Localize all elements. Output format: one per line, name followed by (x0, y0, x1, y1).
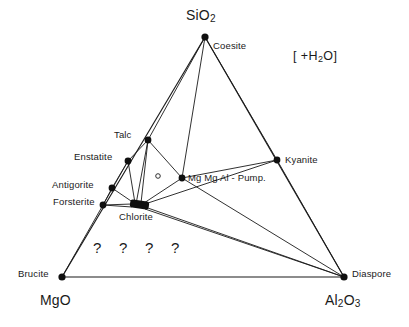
tie-chlorite-mgpump (144, 178, 182, 203)
node-brucite[interactable] (58, 273, 65, 280)
vertex-label-al2o3: Al2O3 (325, 293, 361, 309)
unknown-marker-4: ? (171, 240, 179, 255)
fluid-annotation: [ +H2O] (293, 50, 337, 64)
tie-enstatite-chlorite (128, 161, 135, 203)
phase-label-kyanite: Kyanite (285, 155, 318, 165)
node-mg-al-pumpellyite[interactable] (179, 175, 186, 182)
unknown-marker-2: ? (119, 240, 127, 255)
node-antigorite[interactable] (109, 185, 116, 192)
vertex-label-sio2: SiO2 (186, 8, 216, 24)
node-chlorite-solid-solution[interactable] (130, 199, 150, 210)
phase-label-antigorite: Antigorite (52, 180, 94, 190)
phase-label-enstatite: Enstatite (74, 152, 112, 162)
phase-label-talc: Talc (114, 130, 132, 140)
phase-label-coesite: Coesite (213, 41, 246, 51)
tie-talc-mgpump (148, 140, 182, 178)
phase-label-chlorite: Chlorite (119, 212, 153, 222)
node-unlabeled-open-circle[interactable] (156, 174, 161, 179)
tie-kyanite-diaspore (277, 160, 344, 277)
phase-label-mg-al-pumpellyite: Mg Mg Al - Pump. (188, 173, 266, 183)
node-talc[interactable] (145, 137, 152, 144)
diagram-canvas (0, 0, 409, 327)
phase-label-diaspore: Diaspore (352, 269, 391, 279)
phase-label-brucite: Brucite (18, 269, 49, 279)
unknown-marker-1: ? (93, 240, 101, 255)
phase-label-forsterite: Forsterite (53, 197, 95, 207)
unknown-marker-3: ? (145, 240, 153, 255)
node-diaspore[interactable] (340, 273, 347, 280)
tie-mgpump-diaspore (182, 178, 344, 277)
node-kyanite[interactable] (274, 157, 281, 164)
node-forsterite[interactable] (100, 202, 107, 209)
tie-coesite-kyanite (205, 37, 277, 160)
vertex-label-mgo: MgO (40, 293, 71, 307)
tie-forsterite-chlorite-b (103, 205, 132, 207)
node-enstatite[interactable] (125, 158, 132, 165)
ternary-phase-diagram: SiO2 MgO Al2O3 [ +H2O] Coesite Talc Enst… (0, 0, 409, 327)
node-coesite[interactable] (201, 33, 208, 40)
